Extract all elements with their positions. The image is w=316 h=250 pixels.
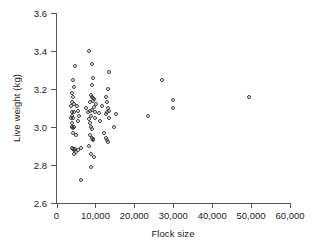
x-tick-label: 60,000 — [275, 210, 304, 221]
data-point — [92, 105, 96, 109]
y-tick-label: 3.4 — [34, 46, 47, 57]
data-point — [88, 100, 92, 104]
data-point — [160, 78, 164, 82]
data-point — [102, 131, 106, 135]
data-point — [89, 93, 93, 97]
data-point — [104, 136, 108, 140]
data-point — [76, 109, 80, 113]
data-point — [90, 62, 94, 66]
data-point — [97, 111, 101, 115]
x-tick-label: 0 — [54, 210, 59, 221]
data-point — [71, 126, 75, 130]
data-point — [107, 70, 111, 74]
data-point — [105, 110, 109, 114]
y-tick-label: 3.6 — [34, 8, 47, 19]
data-point — [107, 109, 111, 113]
data-point — [106, 140, 110, 144]
y-tick-label: 3.0 — [34, 122, 47, 133]
x-tick — [57, 203, 58, 208]
data-point — [247, 95, 251, 99]
x-tick-label: 40,000 — [198, 210, 227, 221]
x-tick-label: 20,000 — [120, 210, 149, 221]
data-point — [74, 150, 78, 154]
data-point — [77, 114, 81, 118]
data-point — [88, 121, 92, 125]
data-point — [86, 110, 90, 114]
data-point — [87, 117, 91, 121]
data-point — [76, 119, 80, 123]
x-axis-label: Flock size — [57, 228, 289, 239]
data-point — [89, 152, 93, 156]
data-point — [104, 95, 108, 99]
y-tick — [51, 127, 56, 128]
data-point — [112, 125, 116, 129]
data-point — [90, 136, 94, 140]
data-point — [69, 116, 73, 120]
data-point — [70, 110, 74, 114]
data-point — [71, 95, 75, 99]
y-axis-label-text: Live weight (kg) — [11, 74, 22, 142]
data-point — [106, 106, 110, 110]
data-point — [91, 137, 95, 141]
data-point — [87, 144, 91, 148]
data-point — [72, 85, 76, 89]
data-point — [91, 96, 95, 100]
data-point — [91, 99, 95, 103]
data-point — [106, 87, 110, 91]
data-point — [90, 95, 94, 99]
y-tick-label: 2.6 — [34, 198, 47, 209]
data-point — [73, 64, 77, 68]
scatter-chart: Live weight (kg) Flock size 2.62.83.03.2… — [0, 0, 316, 250]
data-point — [72, 125, 76, 129]
data-point — [89, 125, 93, 129]
data-point — [84, 106, 88, 110]
x-tick — [95, 203, 96, 208]
data-point — [71, 116, 75, 120]
data-point — [114, 112, 118, 116]
y-tick — [51, 165, 56, 166]
y-axis-label: Live weight (kg) — [8, 13, 24, 203]
x-tick — [173, 203, 174, 208]
data-point — [71, 78, 75, 82]
y-tick — [51, 89, 56, 90]
data-point — [104, 112, 108, 116]
data-point — [94, 102, 98, 106]
data-point — [171, 106, 175, 110]
data-point — [70, 125, 74, 129]
data-point — [89, 114, 93, 118]
x-tick-label: 10,000 — [81, 210, 110, 221]
data-point — [70, 146, 74, 150]
data-point — [79, 178, 83, 182]
data-point — [107, 116, 111, 120]
data-point — [73, 147, 77, 151]
data-point — [74, 133, 78, 137]
data-point — [70, 121, 74, 125]
data-point — [92, 155, 96, 159]
data-point — [146, 114, 150, 118]
data-point — [88, 133, 92, 137]
y-tick — [51, 13, 56, 14]
data-point — [76, 148, 80, 152]
data-point — [91, 138, 95, 142]
data-point — [70, 114, 74, 118]
data-point — [89, 165, 93, 169]
y-axis-line — [56, 13, 57, 204]
data-point — [71, 131, 75, 135]
x-tick — [212, 203, 213, 208]
data-point — [105, 100, 109, 104]
data-point — [93, 116, 97, 120]
data-point — [92, 97, 96, 101]
y-tick-label: 3.2 — [34, 84, 47, 95]
data-point — [90, 83, 94, 87]
y-tick — [51, 203, 56, 204]
data-point — [72, 148, 76, 152]
y-tick — [51, 51, 56, 52]
data-point — [70, 91, 74, 95]
data-point — [79, 146, 83, 150]
data-point — [70, 125, 74, 129]
data-point — [171, 98, 175, 102]
y-tick-label: 2.8 — [34, 160, 47, 171]
data-point — [100, 104, 104, 108]
x-tick — [290, 203, 291, 208]
data-point — [88, 109, 92, 113]
